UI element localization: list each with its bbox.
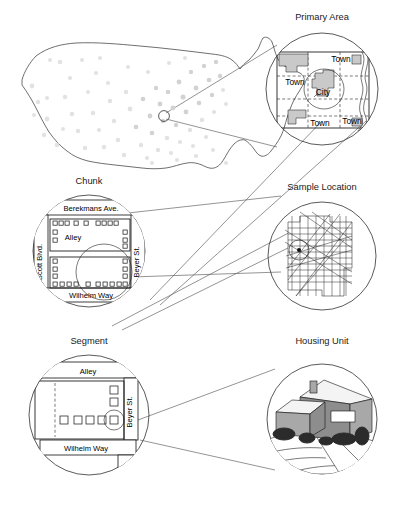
house-chimney: [310, 381, 317, 393]
panel-housing-unit: Housing Unit: [267, 336, 380, 474]
chunk-houses-lower: [53, 259, 127, 286]
panel-national-map: [22, 37, 304, 169]
sample-location-marker: [297, 248, 301, 252]
segment-street-label-alley: Alley: [80, 367, 97, 376]
panel-sample-location: Sample Location: [268, 182, 376, 310]
street-label-scott-blvd: Scott Blvd.: [35, 244, 44, 280]
us-map-outline: [22, 37, 304, 169]
house-window: [331, 411, 355, 422]
label-city: City: [316, 87, 331, 97]
label-town-west: Town: [285, 77, 305, 87]
segment-houses: [60, 386, 118, 424]
shrub-far-right: [355, 427, 369, 445]
chunk-title: Chunk: [76, 176, 103, 186]
label-town-southeast: Town: [342, 116, 362, 126]
street-label-berekmans-ave: Berekmans Ave.: [63, 204, 118, 213]
street-label-wilhelm-way: Wilhelm Way: [69, 291, 113, 300]
shrub-right: [332, 433, 356, 445]
shrub-center: [299, 433, 315, 443]
label-town-north: Town: [331, 54, 351, 64]
label-town-south: Town: [310, 118, 330, 128]
connector-segment-to-housing: [138, 369, 275, 470]
street-label-alley: Alley: [65, 233, 82, 242]
town-block-ne: [352, 55, 361, 64]
panel-segment: Segment Alley Beyer St. Wilhelm Way: [29, 336, 149, 475]
segment-corner-block: [118, 455, 138, 473]
sample-location-title: Sample Location: [287, 182, 356, 192]
primary-area-title: Primary Area: [295, 12, 350, 22]
segment-street-label-beyer-st: Beyer St.: [125, 396, 134, 427]
panel-primary-area: Primary Area Town: [266, 12, 378, 145]
shrub-left: [273, 428, 295, 440]
segment-title: Segment: [70, 336, 108, 346]
segment-street-label-wilhelm-way: Wilhelm Way: [64, 444, 108, 453]
town-block-sw: [288, 110, 306, 124]
shrub-front: [319, 437, 333, 445]
panel-chunk: Chunk Berekmans Ave. Scott Blvd. Beyer S…: [33, 176, 145, 307]
housing-unit-title: Housing Unit: [295, 336, 349, 346]
figure-canvas: Primary Area Town: [0, 0, 403, 506]
street-label-beyer-st: Beyer St.: [132, 246, 141, 277]
us-map-sample-dots: [30, 56, 228, 165]
town-block-nw: [279, 54, 308, 72]
